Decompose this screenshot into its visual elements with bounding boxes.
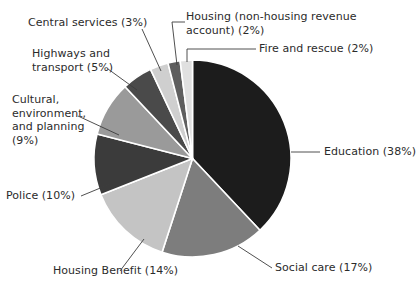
label-housing-benefit: Housing Benefit (14%) <box>53 264 203 278</box>
pie-slice-group <box>94 60 291 257</box>
label-police: Police (10%) <box>6 189 96 203</box>
label-social-care: Social care (17%) <box>275 261 405 275</box>
leader-line-central-services <box>142 29 161 71</box>
label-housing-non-housing-revenue-account: Housing (non-housing revenue account) (2… <box>186 10 366 37</box>
label-highways-and-transport: Highways and transport (5%) <box>32 47 136 74</box>
leader-line-housing-hra <box>172 22 185 65</box>
label-fire-and-rescue: Fire and rescue (2%) <box>259 42 409 56</box>
label-central-services: Central services (3%) <box>28 16 158 30</box>
label-cultural-environment-and-planning: Cultural, environment, and planning (9%) <box>12 93 112 147</box>
leader-line-social-care <box>238 246 272 268</box>
label-education: Education (38%) <box>324 145 420 159</box>
